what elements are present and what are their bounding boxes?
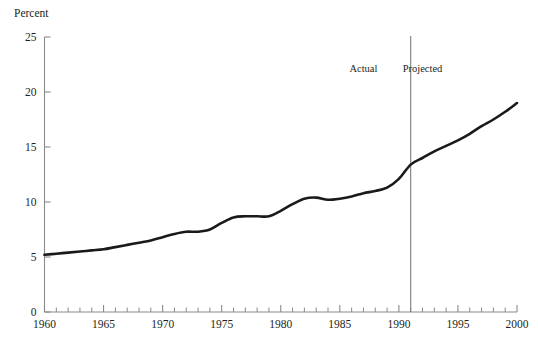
y-tick-label-0: 0 — [31, 306, 37, 318]
y-tick-label-15: 15 — [25, 141, 37, 153]
y-tick-label-5: 5 — [31, 251, 37, 263]
x-tick-label-2000: 2000 — [506, 318, 529, 330]
y-tick-label-25: 25 — [25, 31, 37, 43]
y-tick-label-20: 20 — [25, 86, 37, 98]
y-tick-label-10: 10 — [25, 196, 37, 208]
projected-label: Projected — [403, 63, 443, 74]
line-chart: Percent051015202519601965197019751980198… — [0, 0, 538, 347]
data-line-percent — [45, 103, 518, 255]
x-tick-label-1995: 1995 — [446, 318, 469, 330]
x-tick-label-1960: 1960 — [33, 318, 56, 330]
x-tick-label-1965: 1965 — [92, 318, 115, 330]
y-axis-title: Percent — [14, 7, 49, 19]
x-tick-label-1990: 1990 — [387, 318, 410, 330]
x-tick-label-1975: 1975 — [210, 318, 233, 330]
actual-label: Actual — [349, 63, 377, 74]
chart-container: Percent051015202519601965197019751980198… — [0, 0, 538, 347]
x-tick-label-1980: 1980 — [269, 318, 292, 330]
x-tick-label-1985: 1985 — [328, 318, 351, 330]
x-tick-label-1970: 1970 — [151, 318, 174, 330]
